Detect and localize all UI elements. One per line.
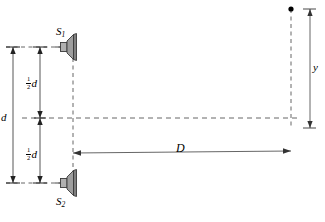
speaker-S1-magnet: [61, 43, 68, 52]
fraction-one-half-lower: 1 2: [26, 147, 31, 162]
label-half-d-upper: 1 2 d: [26, 76, 37, 91]
speaker-S2-cone: [67, 171, 74, 196]
label-d: d: [1, 112, 7, 123]
label-half-d-lower-var: d: [32, 149, 38, 160]
speaker-S2-baffle: [74, 170, 77, 197]
dimension-half-d-lower-arrowhead-down: [37, 176, 42, 183]
dimension-half-d-upper-arrowhead-up: [37, 47, 42, 54]
fraction-one-half-upper: 1 2: [26, 76, 31, 91]
label-D: D: [176, 142, 185, 154]
speaker-S1-cone: [67, 35, 74, 60]
dimension-y-arrowhead-down: [307, 121, 312, 128]
dimension-d-arrowhead-up: [10, 47, 15, 54]
label-y: y: [313, 62, 318, 73]
diagram-canvas: [0, 0, 325, 222]
label-half-d-upper-var: d: [32, 78, 38, 89]
observation-point: [288, 6, 293, 11]
dimension-D-arrowhead-right: [283, 148, 291, 153]
dimension-half-d-lower-arrowhead-up: [37, 118, 42, 125]
physics-figure: S1 S2 d 1 2 d 1 2 d D y: [0, 0, 325, 222]
label-S2: S2: [56, 196, 65, 207]
dimension-half-d-upper-arrowhead-down: [37, 111, 42, 118]
speaker-S2: [55, 170, 77, 197]
dimension-d-arrowhead-down: [10, 176, 15, 183]
dimension-D-arrowhead-left: [73, 150, 81, 155]
label-half-d-lower: 1 2 d: [26, 147, 37, 162]
speaker-S1-baffle: [74, 34, 77, 61]
speaker-S1: [55, 34, 77, 61]
label-S1: S1: [56, 26, 65, 37]
speaker-S2-magnet: [61, 179, 68, 188]
dimension-d: [6, 47, 20, 183]
dimension-y-arrowhead-up: [307, 9, 312, 16]
